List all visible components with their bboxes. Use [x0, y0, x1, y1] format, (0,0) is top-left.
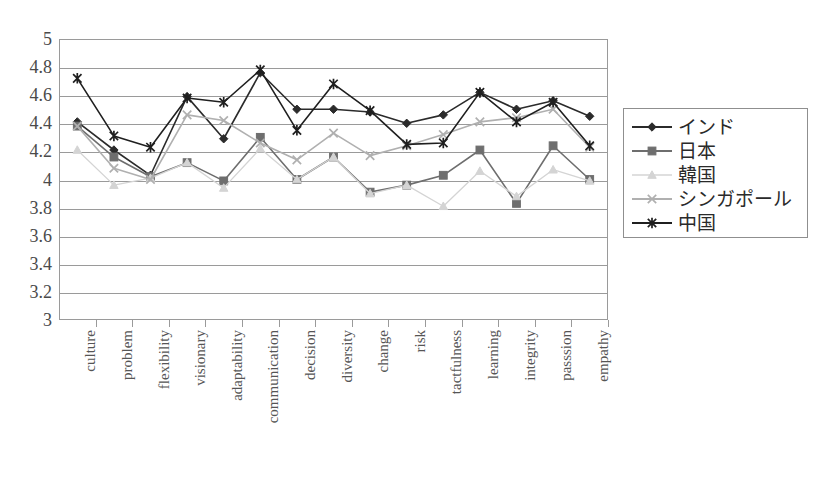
- x-axis-tick: [352, 320, 353, 327]
- triangle-marker-icon: [630, 165, 674, 185]
- x-axis-tick: [205, 320, 206, 327]
- x-axis-tick: [96, 320, 97, 327]
- x-axis-tick: [462, 320, 463, 327]
- y-axis-tick-label: 4.6: [0, 86, 52, 104]
- y-axis-tick-label: 3: [0, 311, 52, 329]
- cross-marker-icon: [630, 189, 674, 209]
- y-axis-tick-label: 3.6: [0, 227, 52, 245]
- x-axis-tick-label: passsion: [559, 330, 574, 381]
- chart-page: 54.84.64.44.243.83.63.43.23 cultureprobl…: [0, 0, 823, 477]
- legend-label: 中国: [678, 214, 716, 233]
- x-axis-tick-label: risk: [413, 330, 428, 353]
- x-axis-tick: [425, 320, 426, 327]
- x-axis-tick: [242, 320, 243, 327]
- x-axis-tick: [535, 320, 536, 327]
- legend-label: 韓国: [678, 166, 716, 185]
- x-axis-ticks: [59, 320, 608, 327]
- x-axis-tick: [279, 320, 280, 327]
- y-axis: 54.84.64.44.243.83.63.43.23: [0, 29, 52, 329]
- legend: インド日本韓国シンガポール中国: [623, 108, 808, 238]
- diamond-marker-icon: [630, 117, 674, 137]
- x-axis-tick: [608, 320, 609, 327]
- y-axis-tick-label: 3.8: [0, 199, 52, 217]
- legend-item-3[interactable]: 韓国: [630, 163, 799, 187]
- y-axis-tick-label: 4.2: [0, 142, 52, 160]
- x-axis-tick: [388, 320, 389, 327]
- square-marker-icon: [630, 141, 674, 161]
- x-axis-tick-label: empathy: [596, 330, 611, 382]
- x-axis: cultureproblemflexibilityvisionaryadapta…: [59, 330, 608, 450]
- legend-label: シンガポール: [678, 190, 792, 209]
- x-axis-tick-label: diversity: [340, 330, 355, 383]
- y-axis-tick-label: 3.4: [0, 255, 52, 273]
- x-axis-tick-label: culture: [83, 330, 98, 372]
- y-axis-tick-label: 4.8: [0, 58, 52, 76]
- legend-item-4[interactable]: シンガポール: [630, 187, 799, 211]
- x-axis-tick-label: adaptability: [230, 330, 245, 401]
- x-axis-tick: [132, 320, 133, 327]
- x-axis-tick: [169, 320, 170, 327]
- x-axis-tick-label: tactfulness: [449, 330, 464, 394]
- asterisk-marker-icon: [630, 213, 674, 233]
- x-axis-tick-label: communication: [266, 330, 281, 423]
- y-axis-tick-label: 3.2: [0, 283, 52, 301]
- x-axis-tick: [315, 320, 316, 327]
- x-axis-tick-label: visionary: [193, 330, 208, 386]
- x-axis-tick-label: change: [376, 330, 391, 372]
- x-axis-tick-label: integrity: [523, 330, 538, 381]
- y-axis-tick-label: 4.4: [0, 114, 52, 132]
- x-axis-tick: [498, 320, 499, 327]
- x-axis-tick-label: problem: [120, 330, 135, 380]
- y-axis-tick-label: 5: [0, 30, 52, 48]
- legend-item-1[interactable]: インド: [630, 115, 799, 139]
- y-axis-tick-label: 4: [0, 171, 52, 189]
- x-axis-tick-label: flexibility: [157, 330, 172, 389]
- chart-series-layer: [59, 39, 608, 320]
- x-axis-tick-label: decision: [303, 330, 318, 380]
- x-axis-tick: [571, 320, 572, 327]
- legend-label: インド: [678, 118, 735, 137]
- x-axis-tick-label: learning: [486, 330, 501, 379]
- legend-item-2[interactable]: 日本: [630, 139, 799, 163]
- legend-item-5[interactable]: 中国: [630, 211, 799, 235]
- legend-label: 日本: [678, 142, 716, 161]
